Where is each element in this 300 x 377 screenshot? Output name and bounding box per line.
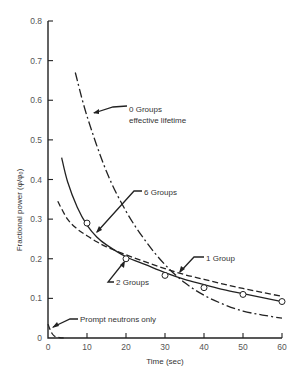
- annotations: 0 Groups effective lifetime 6 Groups 2 G…: [52, 105, 235, 328]
- decay-chart: 010203040506000.10.20.30.40.50.60.70.8 0…: [0, 0, 300, 377]
- y-tick-label: 0.6: [30, 95, 42, 105]
- y-tick-label: 0: [37, 333, 42, 343]
- series-1-group-marker: [123, 256, 129, 262]
- annotation-0-groups-line2: effective lifetime: [129, 116, 187, 125]
- annotation-1-group: 1 Group: [206, 254, 235, 263]
- annotation-2-groups: 2 Groups: [116, 278, 149, 287]
- y-tick-label: 0.8: [30, 16, 42, 26]
- x-tick-label: 0: [46, 342, 51, 352]
- x-tick-label: 50: [238, 342, 248, 352]
- annotation-0-groups-line1: 0 Groups: [129, 105, 162, 114]
- y-tick-label: 0.2: [30, 254, 42, 264]
- y-tick-label: 0.7: [30, 56, 42, 66]
- annotation-prompt-neutrons: Prompt neutrons only: [80, 315, 156, 324]
- y-tick-label: 0.3: [30, 214, 42, 224]
- data-series: [48, 73, 285, 338]
- axes: [48, 21, 282, 338]
- axis-lines: [48, 21, 282, 338]
- x-tick-label: 60: [277, 342, 287, 352]
- x-tick-label: 20: [121, 342, 131, 352]
- series-6-groups: [62, 158, 282, 302]
- x-axis-label: Time (sec): [146, 357, 184, 366]
- x-tick-label: 30: [160, 342, 170, 352]
- series-2-groups: [58, 201, 282, 296]
- y-tick-label: 0.5: [30, 135, 42, 145]
- series-1-group-marker: [201, 285, 207, 291]
- x-tick-label: 40: [199, 342, 209, 352]
- arrow-icon: [93, 109, 99, 114]
- x-tick-label: 10: [82, 342, 92, 352]
- series-1-group-marker: [84, 220, 90, 226]
- arrow-icon: [52, 322, 59, 328]
- series-1-group-marker: [279, 299, 285, 305]
- y-axis-label: Fractional power (φ/φ₀): [15, 168, 24, 251]
- series-1-group-marker: [240, 291, 246, 297]
- y-tick-label: 0.4: [30, 175, 42, 185]
- series-1-group-marker: [162, 272, 168, 278]
- annotation-6-groups: 6 Groups: [144, 188, 177, 197]
- y-tick-label: 0.1: [30, 293, 42, 303]
